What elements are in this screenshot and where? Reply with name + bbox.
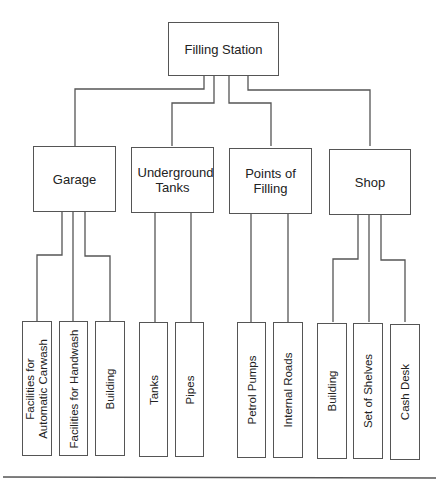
root-label: Filling Station	[184, 42, 262, 57]
node-label: Garage	[53, 172, 96, 187]
leaf-automatic-carwash: Facilities for Automatic Carwash	[22, 321, 52, 456]
node-points-of-filling: Points of Filling	[229, 148, 312, 214]
node-garage: Garage	[33, 146, 116, 212]
leaf-handwash: Facilities for Handwash	[59, 321, 88, 456]
leaf-label: Pipes	[183, 375, 196, 404]
leaf-internal-roads: Internal Roads	[273, 322, 303, 458]
leaf-label: Petrol Pumps	[245, 355, 258, 424]
hierarchy-diagram: Filling Station Garage Underground Tanks…	[0, 0, 444, 483]
leaf-label: Tanks	[147, 374, 160, 404]
leaf-label: Internal Roads	[282, 353, 295, 428]
leaf-cash-desk: Cash Desk	[390, 324, 420, 460]
node-shop: Shop	[329, 149, 411, 215]
root-node-filling-station: Filling Station	[168, 22, 279, 76]
leaf-label: Facilities for Handwash	[67, 329, 80, 448]
leaf-label: Building	[326, 371, 339, 412]
node-underground-tanks: Underground Tanks	[131, 147, 214, 213]
leaf-garage-building: Building	[95, 321, 125, 456]
leaf-label: Building	[104, 368, 117, 409]
leaf-tanks: Tanks	[139, 322, 168, 457]
node-label: Shop	[355, 175, 385, 190]
leaf-label: Facilities for Automatic Carwash	[24, 334, 50, 444]
leaf-petrol-pumps: Petrol Pumps	[237, 322, 266, 458]
leaf-label: Cash Desk	[399, 364, 412, 420]
node-label: Points of Filling	[241, 166, 301, 196]
leaf-shop-building: Building	[317, 323, 347, 459]
leaf-label: Set of Shelves	[362, 354, 375, 428]
leaf-pipes: Pipes	[175, 322, 204, 457]
leaf-set-of-shelves: Set of Shelves	[353, 323, 383, 459]
node-label: Underground Tanks	[138, 165, 208, 195]
